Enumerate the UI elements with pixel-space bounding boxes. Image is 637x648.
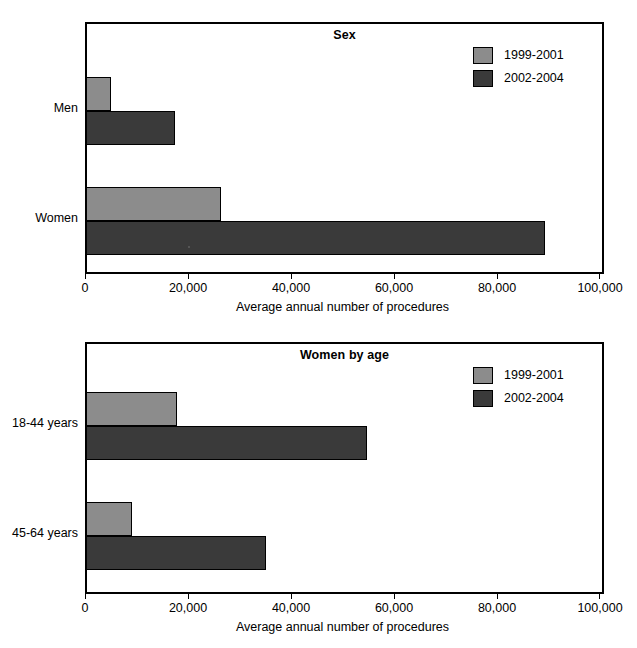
bar (87, 502, 132, 536)
bar (87, 77, 111, 111)
plot-area: Sex 1999-2001 2002-2004 (85, 22, 604, 274)
x-axis-tick (394, 272, 395, 279)
x-axis-title: Average annual number of procedures (85, 300, 600, 314)
x-axis-tick-label: 20,000 (169, 601, 207, 615)
bar (87, 221, 545, 255)
x-axis-tick-label: 40,000 (272, 601, 310, 615)
x-axis-tick-label: 40,000 (272, 281, 310, 295)
y-axis-category-label: Men (0, 101, 78, 115)
x-axis-tick-label: 0 (82, 281, 89, 295)
x-axis-tick-label: 80,000 (478, 281, 516, 295)
x-axis-tick-label: 100,000 (577, 601, 622, 615)
x-axis-tick-label: 60,000 (375, 601, 413, 615)
x-axis-tick (497, 592, 498, 599)
x-axis-tick-label: 80,000 (478, 601, 516, 615)
x-axis-tick (291, 592, 292, 599)
x-axis: 020,00040,00060,00080,000100,000 Average… (85, 272, 600, 312)
bar (87, 187, 221, 221)
x-axis: 020,00040,00060,00080,000100,000 Average… (85, 592, 600, 632)
y-axis-category-label: 18-44 years (0, 416, 78, 430)
bars-container (87, 24, 602, 272)
x-axis-tick (291, 272, 292, 279)
x-axis-tick (85, 592, 86, 599)
bar (87, 111, 175, 145)
x-axis-tick-label: 100,000 (577, 281, 622, 295)
bars-container (87, 344, 602, 592)
bar (87, 536, 266, 570)
x-axis-tick (599, 272, 600, 279)
x-axis-tick-label: 0 (82, 601, 89, 615)
bar (87, 426, 367, 460)
y-axis-category-label: Women (0, 211, 78, 225)
y-axis-category-label: 45-64 years (0, 526, 78, 540)
x-axis-tick (394, 592, 395, 599)
x-axis-tick-label: 20,000 (169, 281, 207, 295)
stray-speck (188, 246, 190, 248)
x-axis-tick (85, 272, 86, 279)
x-axis-tick (188, 592, 189, 599)
bar (87, 392, 177, 426)
x-axis-tick-label: 60,000 (375, 281, 413, 295)
x-axis-title: Average annual number of procedures (85, 620, 600, 634)
x-axis-tick (188, 272, 189, 279)
x-axis-tick (497, 272, 498, 279)
x-axis-tick (599, 592, 600, 599)
plot-area: Women by age 1999-2001 2002-2004 (85, 342, 604, 594)
